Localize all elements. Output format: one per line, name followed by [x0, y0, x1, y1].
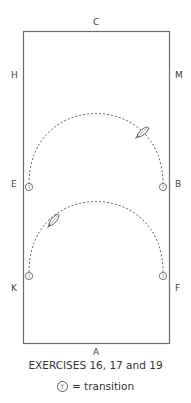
figure-caption: EXERCISES 16, 17 and 19: [0, 359, 191, 371]
letter-k: K: [11, 284, 17, 293]
legend: T = transition: [0, 380, 191, 392]
arena-diagram: T T T T: [0, 0, 191, 403]
svg-text:T: T: [161, 185, 165, 190]
transition-marker-f: T: [159, 272, 166, 279]
svg-text:T: T: [27, 274, 31, 279]
transition-marker-b: T: [159, 183, 166, 190]
horse-icon: [133, 126, 150, 142]
lower-arc-path: [29, 202, 163, 273]
upper-arc-path: [29, 114, 163, 185]
svg-text:T: T: [161, 274, 165, 279]
letter-c: C: [93, 18, 99, 27]
legend-text: = transition: [72, 380, 134, 392]
letter-b: B: [175, 180, 181, 189]
horse-icon: [45, 213, 61, 230]
letter-f: F: [175, 284, 180, 293]
letter-e: E: [11, 180, 17, 189]
transition-marker-e: T: [25, 183, 32, 190]
svg-text:T: T: [27, 185, 31, 190]
letter-m: M: [175, 71, 183, 80]
letter-h: H: [11, 71, 18, 80]
letter-a: A: [93, 348, 99, 357]
arena-border: [24, 32, 170, 344]
transition-symbol-icon: T: [57, 381, 68, 392]
transition-marker-k: T: [25, 272, 32, 279]
